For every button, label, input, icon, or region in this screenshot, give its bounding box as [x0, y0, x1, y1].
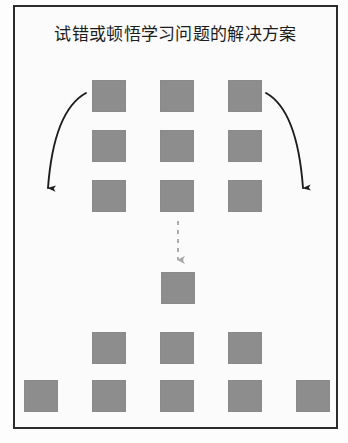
bottom-row-of-five-square-1: [24, 380, 58, 412]
page-title: 试错或顿悟学习问题的解决方案: [13, 22, 338, 46]
lower-row-of-three-square-2: [160, 332, 194, 364]
top-grid-row-2-square-2: [160, 130, 194, 162]
lower-row-of-three-square-1: [92, 332, 126, 364]
top-grid-row-3-square-1: [92, 180, 126, 212]
top-grid-row-3-square-3: [228, 180, 262, 212]
top-grid-row-2-square-1: [92, 130, 126, 162]
figure-root: 试错或顿悟学习问题的解决方案: [0, 0, 348, 443]
bottom-row-of-five-square-5: [296, 380, 330, 412]
top-grid-row-1-square-1: [92, 80, 126, 112]
bottom-row-of-five-square-2: [92, 380, 126, 412]
top-grid-row-3-square-2: [160, 180, 194, 212]
top-grid-row-1-square-2: [160, 80, 194, 112]
bottom-row-of-five-square-4: [228, 380, 262, 412]
top-grid-row-2-square-3: [228, 130, 262, 162]
center-solution-row-square-1: [161, 272, 195, 304]
lower-row-of-three-square-3: [228, 332, 262, 364]
bottom-row-of-five-square-3: [160, 380, 194, 412]
top-grid-row-1-square-3: [228, 80, 262, 112]
figure-frame: [13, 5, 338, 429]
